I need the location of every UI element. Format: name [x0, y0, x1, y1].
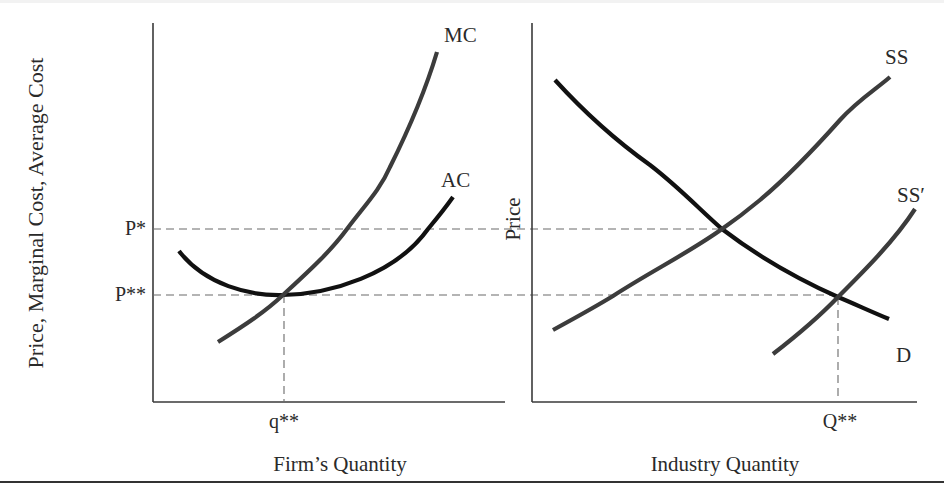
ss-prime-curve: [773, 209, 915, 354]
industry-panel: SS SS′ D Q** Industry Quantity Price: [501, 23, 925, 476]
ac-label: AC: [441, 168, 470, 192]
mc-label: MC: [444, 23, 477, 47]
p-double-star-label: P**: [115, 283, 146, 305]
industry-quantity-axis-title: Industry Quantity: [651, 452, 800, 476]
q-industry-double-star-label: Q**: [823, 410, 857, 432]
ac-curve: [179, 197, 453, 295]
economics-figure: MC AC P* P** q** Firm’s Quantity Price, …: [0, 0, 944, 494]
ss-curve: [553, 77, 890, 330]
d-label: D: [896, 343, 911, 367]
firm-panel: MC AC P* P** q** Firm’s Quantity Price, …: [23, 23, 838, 476]
firm-y-axis-title: Price, Marginal Cost, Average Cost: [23, 58, 48, 369]
demand-curve: [555, 80, 889, 319]
q-double-star-label: q**: [269, 410, 299, 433]
p-star-label: P*: [125, 217, 146, 239]
ss-label: SS: [885, 45, 908, 69]
industry-y-axis-title: Price: [501, 197, 525, 240]
firm-quantity-axis-title: Firm’s Quantity: [273, 452, 407, 476]
ss-prime-label: SS′: [897, 183, 925, 207]
mc-curve: [218, 52, 437, 342]
